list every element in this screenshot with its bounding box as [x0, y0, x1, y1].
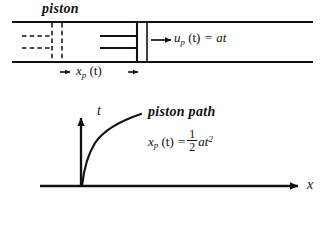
fraction-denominator: 2: [187, 140, 197, 153]
initial-piston-dashed: [22, 23, 62, 61]
piston-head: [100, 23, 147, 61]
piston-label: piston: [42, 2, 79, 16]
t-axis-label: t: [97, 104, 101, 118]
displacement-label-subscript: p: [82, 70, 86, 80]
piston-path-equation-fraction: 1 2: [187, 128, 197, 153]
piston-path-equation-argument: (t): [161, 134, 173, 149]
velocity-equation: up (t) = at: [174, 31, 226, 46]
x-axis-label: x: [307, 178, 313, 192]
velocity-equation-rhs: at: [216, 30, 226, 45]
piston-figure: piston up (t) = at xp (t) piston path xp…: [0, 0, 324, 231]
tube-walls: [12, 22, 313, 62]
piston-path-equation-subscript: p: [154, 140, 158, 150]
velocity-equation-argument: (t): [188, 30, 200, 45]
piston-path-label: piston path: [148, 105, 216, 119]
velocity-equation-equals: =: [204, 30, 213, 45]
fraction-numerator: 1: [187, 128, 197, 140]
piston-path-equation: xp (t) = 1 2 at2: [148, 128, 213, 153]
displacement-label-argument: (t): [89, 63, 101, 78]
piston-path-equation-exponent: 2: [208, 134, 212, 144]
displacement-label: xp (t): [76, 64, 102, 79]
piston-path-equation-equals: =: [177, 134, 186, 149]
velocity-equation-subscript: p: [181, 37, 185, 47]
piston-path-curve: [82, 114, 141, 186]
